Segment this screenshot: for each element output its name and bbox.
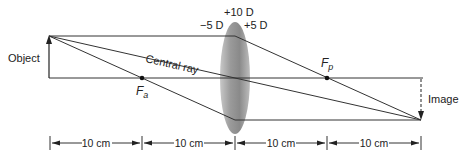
lens-back-power: +5 D: [244, 19, 268, 31]
dimension-1: 10 cm: [52, 137, 140, 149]
focal-point-anterior: [140, 76, 145, 81]
lens-front-power: −5 D: [200, 19, 224, 31]
focal-anterior-label: Fa: [136, 84, 148, 100]
dimension-2: 10 cm: [144, 137, 233, 149]
dimension-4: 10 cm: [329, 137, 419, 149]
lens-total-power: +10 D: [224, 6, 254, 18]
svg-text:10 cm: 10 cm: [267, 137, 296, 149]
thin-lens-diagram: Object Image Central ray Fa Fp +10 D −5 …: [0, 0, 469, 159]
svg-text:10 cm: 10 cm: [360, 137, 389, 149]
central-ray-label: Central ray: [145, 52, 201, 76]
svg-text:10 cm: 10 cm: [82, 137, 111, 149]
dimension-3: 10 cm: [237, 137, 325, 149]
object-label: Object: [8, 52, 40, 64]
svg-text:10 cm: 10 cm: [175, 137, 204, 149]
focal-posterior-label: Fp: [321, 56, 333, 72]
image-label: Image: [428, 93, 459, 105]
focal-point-posterior: [325, 76, 330, 81]
